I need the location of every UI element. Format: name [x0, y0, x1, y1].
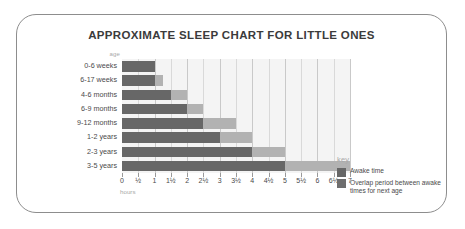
- legend-label-awake: Awake time: [350, 167, 384, 175]
- plot-area: 0-6 weeks6-17 weeks4-6 months6-9 months9…: [122, 59, 350, 173]
- y-axis-label: 3-5 years: [0, 159, 117, 173]
- legend-title: key: [337, 155, 457, 164]
- bar-segment-overlap: [220, 132, 253, 143]
- y-axis-title: age: [78, 51, 120, 57]
- bar-segment-awake: [122, 90, 171, 101]
- bar-segment-overlap: [187, 104, 203, 115]
- chart-row: 6-17 weeks: [122, 73, 350, 87]
- x-axis: hours 0½11½22½33½44½55½66½7: [122, 173, 350, 197]
- y-axis-label: 6-17 weeks: [0, 73, 117, 87]
- bar-segment-awake: [122, 61, 155, 72]
- y-axis-label: 4-6 months: [0, 88, 117, 102]
- chart-row: 3-5 years: [122, 159, 350, 173]
- bar-segment-awake: [122, 147, 252, 158]
- legend-label-overlap: Overlap period between awake times for n…: [350, 179, 457, 195]
- bar-segment-awake: [122, 75, 155, 86]
- bar-segment-overlap: [203, 118, 236, 129]
- bar-segment-overlap: [155, 75, 163, 86]
- x-axis-title: hours: [120, 188, 135, 195]
- chart-title: APPROXIMATE SLEEP CHART FOR LITTLE ONES: [17, 29, 446, 41]
- bar-segment-awake: [122, 161, 285, 172]
- chart-row: 6-9 months: [122, 102, 350, 116]
- chart-row: 2-3 years: [122, 145, 350, 159]
- bar-segment-awake: [122, 118, 203, 129]
- chart-row: 0-6 weeks: [122, 59, 350, 73]
- chart-card: APPROXIMATE SLEEP CHART FOR LITTLE ONES …: [16, 14, 447, 213]
- legend-item-awake: Awake time: [337, 167, 457, 177]
- chart-row: 1-2 years: [122, 130, 350, 144]
- legend-item-overlap: Overlap period between awake times for n…: [337, 179, 457, 195]
- legend: key Awake time Overlap period between aw…: [337, 155, 457, 197]
- y-axis-label: 2-3 years: [0, 145, 117, 159]
- legend-swatch-overlap-icon: [337, 179, 346, 188]
- y-axis-label: 1-2 years: [0, 130, 117, 144]
- y-axis-label: 6-9 months: [0, 102, 117, 116]
- bar-segment-awake: [122, 132, 220, 143]
- bar-segment-overlap: [252, 147, 285, 158]
- y-axis-label: 9-12 months: [0, 116, 117, 130]
- y-axis-label: 0-6 weeks: [0, 59, 117, 73]
- bar-segment-overlap: [171, 90, 187, 101]
- chart-row: 4-6 months: [122, 88, 350, 102]
- legend-swatch-awake-icon: [337, 168, 346, 177]
- bar-segment-awake: [122, 104, 187, 115]
- chart-row: 9-12 months: [122, 116, 350, 130]
